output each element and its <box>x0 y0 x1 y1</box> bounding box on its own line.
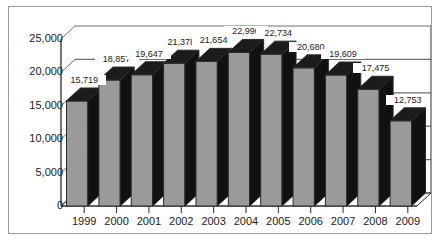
data-value-labels: 15,71918,85719,64721,37821,65422,99022,7… <box>9 7 431 233</box>
bar-value-label: 12,753 <box>386 95 430 105</box>
cut-off-caption <box>8 0 238 5</box>
chart-frame: 05,00010,00015,00020,00025,000 199920002… <box>8 6 432 234</box>
bar-value-label: 19,647 <box>127 49 171 59</box>
bar-value-label: 15,719 <box>62 75 106 85</box>
bar-value-label: 19,609 <box>321 49 365 59</box>
bar-value-label: 17,475 <box>353 63 397 73</box>
bar-value-label: 22,734 <box>256 28 300 38</box>
bar-value-label: 21,654 <box>192 35 236 45</box>
